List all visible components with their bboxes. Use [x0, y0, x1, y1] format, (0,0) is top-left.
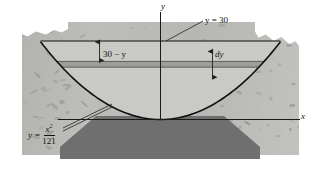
- x-axis-label: x: [301, 112, 305, 121]
- surface-label-leader: [166, 21, 203, 41]
- equation-fraction: x2 121: [42, 123, 56, 146]
- equation-numerator: x2: [44, 123, 55, 136]
- depth-label: 30 − y: [103, 50, 126, 59]
- equation-lhs: y =: [28, 130, 40, 140]
- surface-level-label: y = 30: [205, 16, 228, 25]
- trough-vector-overlay: [0, 0, 321, 172]
- figure-parabolic-trough: y x y = 30 30 − y dy y = x2 121: [0, 0, 321, 172]
- curve-equation-label: y = x2 121: [28, 123, 56, 146]
- equation-denominator: 121: [42, 136, 56, 146]
- equation-leader-upper: [63, 104, 112, 128]
- y-axis-label: y: [161, 2, 165, 11]
- slab-thickness-label: dy: [215, 50, 224, 59]
